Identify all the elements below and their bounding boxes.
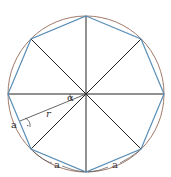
right-angle-dot: ·: [26, 120, 29, 131]
radius-line: [20, 94, 86, 121]
side-label-bottom-right: a: [112, 159, 118, 170]
radius-label: r: [46, 108, 52, 119]
side-label-left: a: [11, 119, 17, 130]
angle-label: α: [67, 92, 74, 103]
side-label-bottom-left: a: [54, 159, 60, 170]
octagon-diagram: α r a · a a: [0, 0, 171, 177]
